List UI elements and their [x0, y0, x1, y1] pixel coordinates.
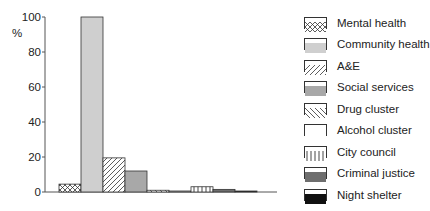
legend-item: Criminal justice	[304, 163, 430, 185]
bar-night-shelter	[235, 191, 257, 192]
legend-item: Social services	[304, 77, 430, 99]
y-axis-label: %	[12, 27, 22, 39]
y-tick-label: 0	[35, 186, 41, 198]
legend-label: Alcohol cluster	[337, 124, 412, 136]
bar-social-services	[125, 171, 147, 192]
legend-swatch-white	[304, 124, 327, 136]
legend-label: Social services	[337, 81, 414, 93]
legend-item: Drug cluster	[304, 98, 430, 120]
y-tick-label: 100	[22, 11, 41, 23]
bar-drug-cluster	[147, 190, 169, 192]
legend-label: Night shelter	[337, 189, 402, 201]
legend-label: Community health	[337, 38, 430, 50]
y-tick-label: 60	[28, 81, 41, 93]
legend-swatch-diagonal-right	[304, 60, 327, 72]
bar-alcohol-cluster	[169, 191, 191, 192]
bar-mental-health	[59, 184, 81, 192]
legend-label: Drug cluster	[337, 103, 399, 115]
y-tick-label: 40	[28, 116, 41, 128]
bar-a-e	[103, 158, 125, 192]
legend-swatch-dark-grey	[304, 167, 327, 179]
legend-label: A&E	[337, 60, 360, 72]
legend-swatch-light-grey	[304, 38, 327, 50]
bar-chart: 020406080100%	[0, 0, 300, 211]
legend-swatch-vertical-lines	[304, 146, 327, 158]
legend-label: Mental health	[337, 17, 406, 29]
legend-item: City council	[304, 141, 430, 163]
bar-community-health	[81, 17, 103, 192]
legend-item: Mental health	[304, 12, 430, 34]
y-tick-label: 20	[28, 151, 41, 163]
bar-city-council	[191, 187, 213, 192]
legend-swatch-mid-grey	[304, 81, 327, 93]
y-tick-label: 80	[28, 46, 41, 58]
bars	[59, 17, 257, 192]
legend-swatch-diagonal-left	[304, 103, 327, 115]
legend-swatch-black	[304, 189, 327, 201]
legend-swatch-crosshatch	[304, 17, 327, 29]
legend-item: A&E	[304, 55, 430, 77]
legend-label: City council	[337, 146, 396, 158]
legend: Mental healthCommunity healthA&ESocial s…	[304, 12, 430, 206]
y-axis: 020406080100%	[12, 11, 277, 198]
legend-label: Criminal justice	[337, 167, 415, 179]
legend-item: Alcohol cluster	[304, 120, 430, 142]
bar-criminal-justice	[213, 189, 235, 192]
legend-item: Community health	[304, 34, 430, 56]
legend-item: Night shelter	[304, 184, 430, 206]
